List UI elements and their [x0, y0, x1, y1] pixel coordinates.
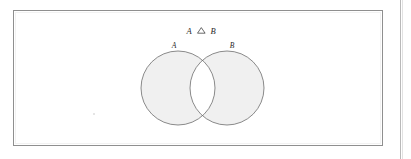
label-set-b: B: [230, 41, 235, 50]
venn-diagram: A B A B: [13, 10, 383, 146]
scan-edge-rule: [400, 0, 401, 159]
symmetric-difference-triangle-icon: [198, 28, 206, 34]
scan-edge-rule-secondary: [402, 0, 403, 159]
figure-page: A B A B: [0, 0, 411, 159]
region-b-only-shaded: [13, 10, 383, 146]
label-set-a: A: [171, 41, 177, 50]
expression-operand-a: A: [185, 26, 192, 36]
expression-operand-b: B: [210, 26, 215, 36]
